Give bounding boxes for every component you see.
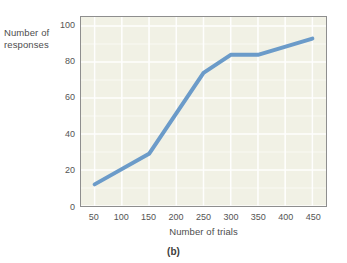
x-tick-label-50: 50 <box>79 213 109 222</box>
plot-area <box>80 16 327 207</box>
x-tick-label-450: 450 <box>298 213 328 222</box>
y-tick-label-20: 20 <box>49 166 75 175</box>
x-tick-label-350: 350 <box>243 213 273 222</box>
y-tick-label-60: 60 <box>49 93 75 102</box>
figure-panel: Number of responses 020406080100 5010015… <box>0 0 347 263</box>
y-tick-label-40: 40 <box>49 130 75 139</box>
x-tick-label-100: 100 <box>106 213 136 222</box>
x-tick-label-300: 300 <box>216 213 246 222</box>
y-axis-title: Number of responses <box>4 27 70 51</box>
x-axis-title: Number of trials <box>80 226 327 237</box>
x-tick-label-250: 250 <box>189 213 219 222</box>
figure-caption: (b) <box>0 246 347 257</box>
y-tick-label-80: 80 <box>49 57 75 66</box>
data-line-series <box>81 17 326 206</box>
x-tick-label-150: 150 <box>134 213 164 222</box>
y-tick-label-100: 100 <box>49 21 75 30</box>
x-tick-label-400: 400 <box>271 213 301 222</box>
y-axis-title-line-2: responses <box>4 39 70 51</box>
y-tick-label-0: 0 <box>49 203 75 212</box>
x-tick-label-200: 200 <box>161 213 191 222</box>
